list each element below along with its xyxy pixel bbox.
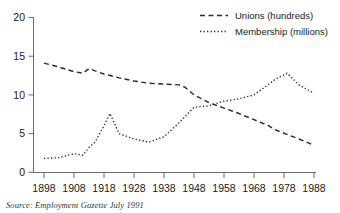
series-line-membership bbox=[44, 73, 314, 158]
legend-label-unions: Unions (hundreds) bbox=[235, 10, 313, 21]
source-note: Source: Employment Gazette July 1991 bbox=[6, 200, 144, 210]
x-tick-label-1928: 1928 bbox=[122, 182, 146, 194]
series-line-unions bbox=[44, 63, 314, 145]
x-tick-label-1948: 1948 bbox=[182, 182, 206, 194]
x-tick-label-1898: 1898 bbox=[32, 182, 56, 194]
x-tick-label-1918: 1918 bbox=[92, 182, 116, 194]
chart-figure: 20 15 10 5 0 1898 1908 1918 1928 1938 19… bbox=[0, 0, 340, 213]
y-tick-label-20: 20 bbox=[13, 11, 25, 23]
x-tick-label-1908: 1908 bbox=[62, 182, 86, 194]
x-tick-label-1958: 1958 bbox=[212, 182, 236, 194]
trade-union-line-chart: 20 15 10 5 0 1898 1908 1918 1928 1938 19… bbox=[0, 0, 340, 213]
y-tick-label-0: 0 bbox=[19, 166, 25, 178]
x-tick-label-1938: 1938 bbox=[152, 182, 176, 194]
chart-legend: Unions (hundreds) Membership (millions) bbox=[200, 10, 328, 37]
y-tick-label-5: 5 bbox=[19, 127, 25, 139]
y-tick-label-10: 10 bbox=[13, 89, 25, 101]
x-tick-label-1988: 1988 bbox=[302, 182, 326, 194]
x-tick-label-1968: 1968 bbox=[242, 182, 266, 194]
x-axis: 1898 1908 1918 1928 1938 1948 1958 1968 … bbox=[32, 173, 326, 195]
legend-label-membership: Membership (millions) bbox=[235, 26, 328, 37]
y-tick-label-15: 15 bbox=[13, 50, 25, 62]
y-axis: 20 15 10 5 0 bbox=[13, 11, 33, 178]
x-tick-label-1978: 1978 bbox=[272, 182, 296, 194]
